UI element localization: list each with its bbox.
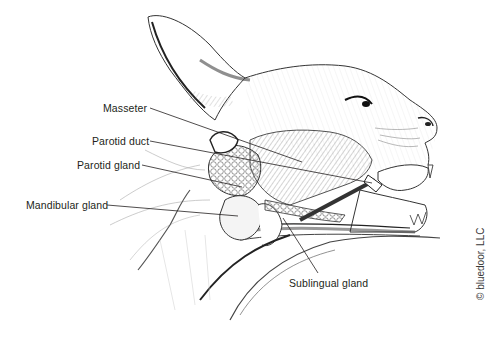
label-sublingual-gland: Sublingual gland [289,278,368,289]
copyright-notice: © bluedoor, LLC [475,228,486,300]
ear [148,16,250,120]
masseter-muscle [250,130,372,205]
label-masseter: Masseter [103,103,147,114]
cat-head-illustration [0,0,488,337]
label-parotid-gland: Parotid gland [77,160,140,171]
leader-line-mandibular-gland [107,205,238,216]
leader-line-sublingual-gland [283,218,318,273]
label-parotid-duct: Parotid duct [92,136,149,147]
anatomy-figure: Masseter Parotid duct Parotid gland Mand… [0,0,488,337]
label-mandibular-gland: Mandibular gland [26,200,108,211]
